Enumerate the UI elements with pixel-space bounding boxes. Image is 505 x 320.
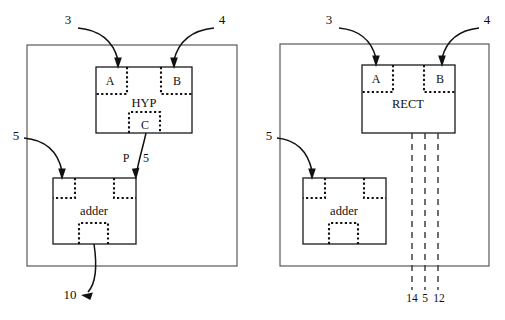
left-output-connector: 10 xyxy=(64,244,96,302)
right-ref4-label: 4 xyxy=(484,12,491,27)
left-ref5-connector: 5 xyxy=(13,128,66,180)
left-ref3-label: 3 xyxy=(65,12,72,27)
left-adder-label: adder xyxy=(80,204,109,218)
right-ref4-connector: 4 xyxy=(438,12,491,67)
right-ref3-arrow-path xyxy=(339,28,376,58)
hyp-port-a-label: A xyxy=(106,74,115,88)
right-panel: A B RECT adder 14 5 12 xyxy=(266,12,491,304)
bus-label-14: 14 xyxy=(406,292,418,304)
rect-port-a-label: A xyxy=(372,72,381,86)
figure-container: A B C HYP adder 3 xyxy=(0,0,505,320)
left-ref3-connector: 3 xyxy=(65,12,122,69)
hyp-unit[interactable]: A B C HYP xyxy=(96,67,192,133)
left-signal-5-label: 5 xyxy=(143,151,149,165)
left-ref4-label: 4 xyxy=(219,12,226,27)
bus-label-12: 12 xyxy=(433,292,445,304)
rect-unit[interactable]: A B RECT xyxy=(362,65,455,133)
right-ref5-label: 5 xyxy=(266,128,273,143)
right-ref5-connector: 5 xyxy=(266,128,316,180)
right-ref5-arrow-path xyxy=(277,138,312,171)
hyp-port-b-label: B xyxy=(173,74,181,88)
left-ref5-label: 5 xyxy=(13,128,20,143)
left-output-arrow-head xyxy=(81,293,93,300)
left-ref4-connector: 4 xyxy=(170,12,226,69)
right-ref3-label: 3 xyxy=(326,12,333,27)
left-ref4-arrow-path xyxy=(174,28,214,60)
diagram-canvas: A B C HYP adder 3 xyxy=(0,0,505,320)
left-ref10-label: 10 xyxy=(64,287,77,302)
left-adder-unit[interactable]: adder xyxy=(53,178,136,244)
left-output-arrow-path xyxy=(88,244,96,292)
right-ref3-connector: 3 xyxy=(326,12,380,67)
hyp-unit-label: HYP xyxy=(131,96,156,110)
left-signal-p-label: P xyxy=(123,151,130,165)
left-ref3-arrow-path xyxy=(78,28,118,60)
left-p5-connector: P 5 xyxy=(123,133,149,180)
left-panel: A B C HYP adder 3 xyxy=(13,12,237,302)
right-bus-group: 14 5 12 xyxy=(406,133,445,304)
hyp-port-c-label: C xyxy=(141,118,149,132)
rect-port-b-label: B xyxy=(436,72,444,86)
bus-label-5: 5 xyxy=(422,292,428,304)
rect-unit-label: RECT xyxy=(392,97,424,111)
right-ref4-arrow-path xyxy=(442,28,479,58)
right-adder-label: adder xyxy=(330,204,359,218)
left-ref5-arrow-path xyxy=(24,138,62,171)
right-adder-unit[interactable]: adder xyxy=(303,178,386,244)
